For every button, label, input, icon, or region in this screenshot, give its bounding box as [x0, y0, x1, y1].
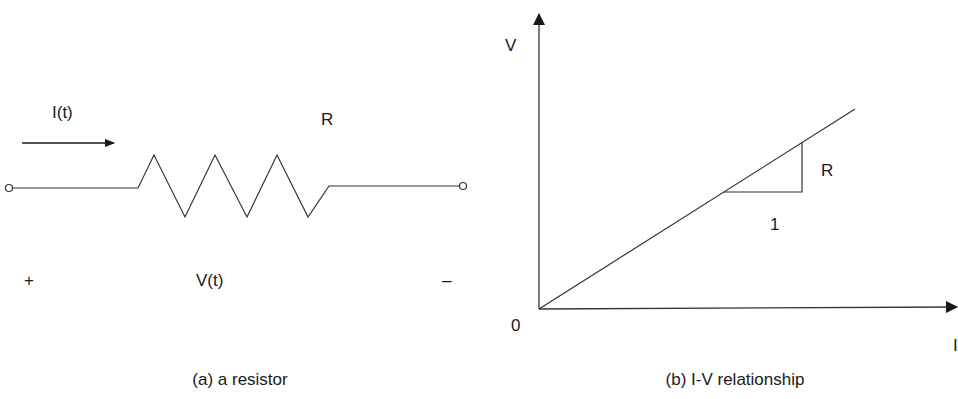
iv-graph: [539, 14, 957, 309]
resistor-zigzag: [13, 155, 459, 217]
voltage-label: V(t): [196, 272, 223, 289]
diagram-canvas: [0, 0, 958, 399]
caption-b: (b) I-V relationship: [666, 371, 805, 388]
slope-rise-label: R: [821, 162, 833, 179]
x-axis-label: I: [953, 337, 958, 354]
resistor-diagram: [6, 143, 467, 217]
current-label: I(t): [52, 104, 73, 121]
caption-a: (a) a resistor: [192, 371, 287, 388]
y-axis-label: V: [505, 37, 516, 54]
x-axis: [539, 307, 957, 309]
plus-sign: +: [24, 272, 34, 289]
resistor-label: R: [321, 111, 333, 128]
minus-sign: –: [442, 272, 451, 289]
right-terminal: [460, 183, 467, 190]
origin-label: 0: [511, 317, 520, 334]
slope-run-label: 1: [770, 216, 779, 233]
left-terminal: [6, 185, 13, 192]
iv-line: [539, 109, 855, 309]
